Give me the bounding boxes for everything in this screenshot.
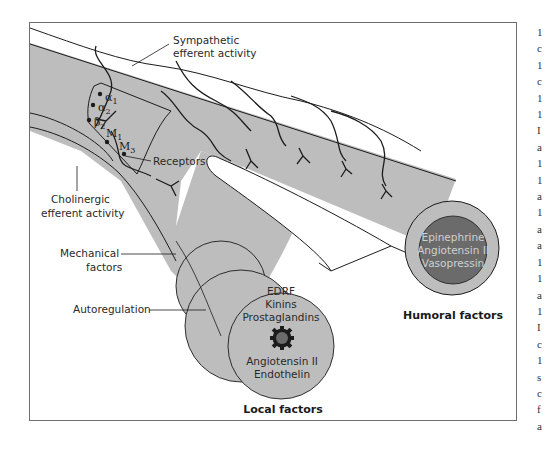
- humoral-factor-vasopressin: Vasopressin: [422, 257, 484, 269]
- local-factor-prostaglandins: Prostaglandins: [242, 311, 319, 323]
- local-factor-edrf: EDRF: [267, 285, 295, 297]
- local-factor-kinins: Kinins: [265, 298, 297, 310]
- label-cholinergic-line2: efferent activity: [41, 207, 125, 219]
- label-humoral-factors: Humoral factors: [403, 309, 503, 322]
- label-sympathetic-line1: Sympathetic: [173, 34, 239, 46]
- local-factor-endothelin: Endothelin: [254, 368, 310, 380]
- label-mechanical-line1: Mechanical: [60, 247, 119, 259]
- local-factor-angiotensin: Angiotensin II: [246, 355, 318, 367]
- label-cholinergic-line1: Cholinergic: [51, 193, 110, 205]
- label-autoregulation: Autoregulation: [73, 303, 151, 315]
- humoral-factor-epinephrine: Epinephrine: [422, 231, 485, 243]
- label-mechanical-line2: factors: [86, 261, 122, 273]
- label-local-factors: Local factors: [243, 403, 323, 416]
- cropped-body-text: 1 c 1 c 1 1 I a 1 1 a 1 a a 1 1 a 1 I c …: [537, 24, 555, 434]
- diagram-frame: α1 α2 β2 M1 M3 Sympathetic efferent acti…: [29, 22, 517, 421]
- humoral-factor-angiotensin: Angiotensin II: [417, 244, 489, 256]
- label-receptors: Receptors: [153, 155, 206, 167]
- vessel-diagram: α1 α2 β2 M1 M3 Sympathetic efferent acti…: [30, 23, 516, 420]
- endothelial-cell-gear-icon: [270, 326, 294, 350]
- label-sympathetic-line2: efferent activity: [173, 47, 257, 59]
